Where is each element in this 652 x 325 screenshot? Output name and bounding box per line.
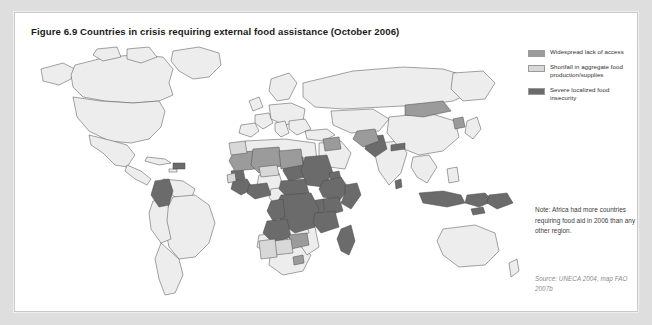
- figure-source: Source: UNECA 2004, map FAO 2007b: [535, 274, 637, 293]
- region-ivorycoast-ghana: [247, 183, 271, 199]
- region-scandinavia: [269, 73, 297, 101]
- figure-card: Figure 6.9 Countries in crisis requiring…: [14, 12, 638, 312]
- region-haiti-dr: [173, 163, 185, 169]
- region-congo: [267, 199, 285, 221]
- world-map: [23, 43, 523, 305]
- region-north-korea: [453, 117, 465, 129]
- region-caribbean-isles: [169, 169, 177, 172]
- region-new-zealand: [509, 259, 519, 277]
- legend-item-severe: Severe localized food insecurity: [528, 86, 632, 103]
- region-namibia: [259, 239, 277, 259]
- region-guineabissau: [227, 173, 236, 183]
- region-timor: [471, 207, 485, 215]
- legend-label-shortfall: Shortfall in aggregate food production/s…: [550, 63, 632, 80]
- region-western-sahara: [229, 141, 247, 155]
- region-greenland: [171, 47, 221, 79]
- region-canada: [71, 55, 173, 103]
- legend-swatch-shortfall: [528, 65, 545, 72]
- region-brazil: [165, 195, 215, 259]
- legend-swatch-severe: [528, 88, 545, 95]
- legend-swatch-widespread: [528, 50, 545, 57]
- figure-note: Note: Africa had more countries requirin…: [535, 205, 637, 237]
- legend-item-shortfall: Shortfall in aggregate food production/s…: [528, 63, 632, 80]
- legend-item-widespread: Widespread lack of access: [528, 48, 632, 57]
- region-tanzania: [313, 211, 339, 233]
- region-russia: [303, 67, 475, 109]
- region-britain: [249, 97, 263, 111]
- region-indochina: [411, 155, 437, 183]
- region-madagascar: [337, 225, 355, 255]
- region-burkina: [259, 165, 279, 177]
- region-central-america: [125, 165, 151, 185]
- panel-divider: [639, 43, 640, 305]
- region-iraq: [323, 137, 341, 151]
- region-lesotho-swaziland: [293, 255, 304, 265]
- region-srilanka: [395, 179, 402, 189]
- region-japan: [465, 117, 481, 139]
- map-legend: Widespread lack of access Shortfall in a…: [528, 48, 632, 109]
- region-philippines: [447, 167, 459, 183]
- legend-label-widespread: Widespread lack of access: [550, 48, 624, 56]
- region-cuba: [145, 157, 171, 165]
- figure-title: Figure 6.9 Countries in crisis requiring…: [31, 26, 399, 37]
- region-usa: [73, 97, 165, 143]
- legend-label-severe: Severe localized food insecurity: [550, 86, 632, 103]
- region-central-asia: [331, 109, 389, 133]
- region-papua: [487, 193, 513, 209]
- region-alaska: [41, 63, 75, 85]
- region-australia: [437, 225, 499, 267]
- region-iberia: [239, 123, 259, 137]
- world-map-svg: [23, 43, 523, 305]
- region-indonesia: [419, 191, 465, 207]
